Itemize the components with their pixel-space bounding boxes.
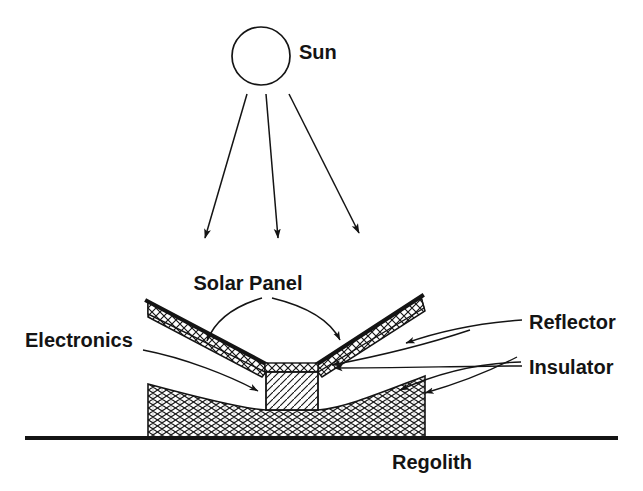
- panel-vertex-bridge: [265, 363, 318, 372]
- diagram-canvas: Sun Solar Panel Electronics Reflector In…: [0, 0, 643, 491]
- reflector-label: Reflector: [529, 311, 616, 333]
- sunlight-ray-group: [205, 94, 359, 238]
- electronics-label: Electronics: [25, 329, 133, 351]
- sunlight-ray-left: [205, 94, 247, 238]
- solar-panel-right: [318, 297, 424, 372]
- sunlight-ray-right: [289, 94, 359, 233]
- sun-label: Sun: [299, 41, 337, 63]
- solar-panel-leader-right: [272, 298, 340, 340]
- solar-panel-label: Solar Panel: [194, 272, 303, 294]
- solar-panel-leader-left: [207, 298, 262, 341]
- solar-panel-leader-group: [207, 298, 340, 341]
- insulator-label: Insulator: [529, 356, 614, 378]
- lunar-solar-station-diagram: Sun Solar Panel Electronics Reflector In…: [0, 0, 643, 491]
- regolith-label: Regolith: [392, 451, 472, 473]
- sun-circle: [232, 27, 290, 85]
- sunlight-ray-center: [266, 94, 278, 238]
- electronics-block: [266, 372, 318, 410]
